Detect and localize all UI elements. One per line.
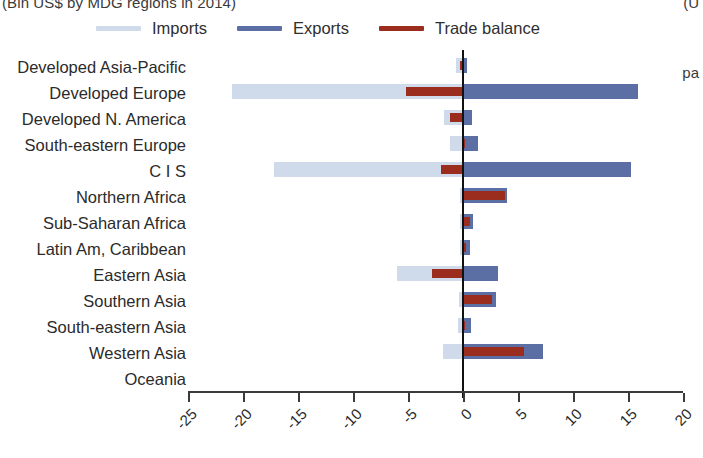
x-axis-line [188, 391, 683, 393]
x-axis-tick-label: 10 [555, 405, 585, 435]
x-axis-tick-label: -5 [390, 405, 420, 435]
chart-category-label: South-eastern Asia [47, 319, 186, 336]
chart-category-label: Developed Asia-Pacific [17, 59, 186, 76]
right-margin-text: pa [682, 64, 699, 81]
chart-row: South-eastern Asia [0, 314, 703, 340]
bar-imports[interactable] [450, 136, 463, 151]
legend-item-trade-balance[interactable]: Trade balance [379, 19, 540, 38]
legend-label-imports: Imports [152, 19, 207, 38]
bar-imports[interactable] [443, 344, 463, 359]
bar-exports[interactable] [463, 110, 472, 125]
chart-legend: Imports Exports Trade balance [96, 16, 656, 40]
chart-row: Western Asia [0, 340, 703, 366]
chart-category-label: C I S [149, 163, 186, 180]
x-axis-tick [683, 393, 685, 402]
x-axis-tick [628, 393, 630, 402]
x-axis-tick [243, 393, 245, 402]
x-axis-tick [353, 393, 355, 402]
bar-exports[interactable] [463, 266, 498, 281]
x-axis-tick [408, 393, 410, 402]
chart-category-label: Developed Europe [49, 85, 186, 102]
bar-trade-balance[interactable] [432, 269, 463, 278]
chart-category-label: Eastern Asia [93, 267, 186, 284]
chart-row: Developed Asia-Pacific [0, 54, 703, 80]
zero-reference-line [462, 50, 464, 398]
chart-row: Developed N. America [0, 106, 703, 132]
x-axis-tick [518, 393, 520, 402]
x-axis-tick-label: -15 [280, 405, 310, 435]
chart-title-right: (U [683, 0, 699, 11]
chart-row: South-eastern Europe [0, 132, 703, 158]
legend-label-exports: Exports [293, 19, 349, 38]
chart-row: Southern Asia [0, 288, 703, 314]
bar-trade-balance[interactable] [463, 295, 492, 304]
bar-trade-balance[interactable] [441, 165, 463, 174]
x-axis-tick [573, 393, 575, 402]
x-axis-tick [188, 393, 190, 402]
line-swatch-icon [96, 26, 141, 31]
bar-trade-balance[interactable] [450, 113, 463, 122]
chart-row: C I S [0, 158, 703, 184]
x-axis-tick [463, 393, 465, 402]
x-axis-tick-label: -25 [170, 405, 200, 435]
bar-exports[interactable] [463, 84, 638, 99]
x-axis-tick-label: -20 [225, 405, 255, 435]
chart-row: Latin Am, Caribbean [0, 236, 703, 262]
bar-trade-balance[interactable] [406, 87, 463, 96]
x-axis-tick-label: 0 [445, 405, 475, 435]
chart-plot-area: Developed Asia-PacificDeveloped EuropeDe… [0, 52, 703, 458]
x-axis-tick [298, 393, 300, 402]
chart-category-label: Western Asia [89, 345, 186, 362]
chart-row: Developed Europe [0, 80, 703, 106]
chart-category-label: Northern Africa [76, 189, 186, 206]
chart-category-label: Sub-Saharan Africa [43, 215, 186, 232]
chart-row: Eastern Asia [0, 262, 703, 288]
line-swatch-icon [237, 26, 282, 31]
x-axis-tick-label: 5 [500, 405, 530, 435]
chart-category-label: Southern Asia [83, 293, 186, 310]
chart-row: Northern Africa [0, 184, 703, 210]
chart-category-label: Latin Am, Caribbean [36, 241, 186, 258]
chart-category-label: Oceania [125, 371, 186, 388]
bar-trade-balance[interactable] [463, 191, 505, 200]
chart-category-label: Developed N. America [22, 111, 186, 128]
bar-imports[interactable] [274, 162, 463, 177]
x-axis-tick-label: 15 [610, 405, 640, 435]
line-swatch-icon [379, 26, 424, 31]
chart-title-left: (Bln US$ by MDG regions in 2014) [2, 0, 236, 11]
chart-category-label: South-eastern Europe [25, 137, 186, 154]
chart-bars-container: Developed Asia-PacificDeveloped EuropeDe… [0, 52, 703, 392]
x-axis-tick-label: -10 [335, 405, 365, 435]
bar-exports[interactable] [463, 162, 631, 177]
legend-item-imports[interactable]: Imports [96, 19, 207, 38]
chart-row: Sub-Saharan Africa [0, 210, 703, 236]
legend-label-trade-balance: Trade balance [435, 19, 540, 38]
bar-exports[interactable] [463, 136, 478, 151]
x-axis-tick-label: 20 [665, 405, 695, 435]
bar-trade-balance[interactable] [463, 347, 524, 356]
chart-row: Oceania [0, 366, 703, 392]
legend-item-exports[interactable]: Exports [237, 19, 349, 38]
